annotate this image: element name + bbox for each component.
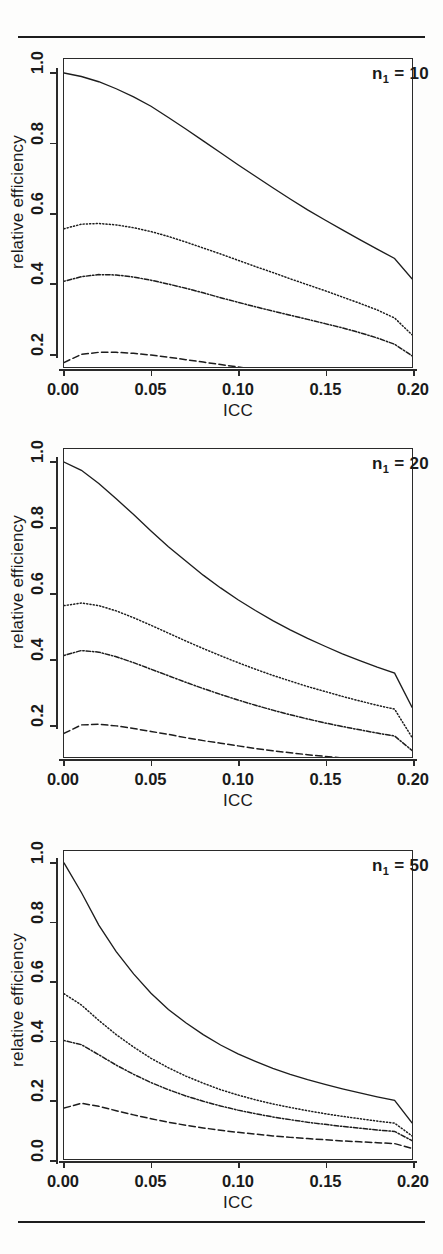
top-horizontal-rule <box>18 36 425 38</box>
y-axis-tick-label: 0.8 <box>28 901 47 924</box>
panel-label: n1 = 10 <box>372 64 429 85</box>
y-axis-tick-label: 0.8 <box>28 122 47 145</box>
y-axis-tick <box>50 213 57 215</box>
x-axis-tick <box>238 759 240 766</box>
y-axis-tick <box>50 1100 57 1102</box>
x-axis-tick-label: 0.10 <box>222 1172 254 1191</box>
curves-layer <box>64 59 412 367</box>
x-axis-tick-label: 0.00 <box>47 770 79 789</box>
curve-series-3 <box>64 1041 412 1141</box>
x-axis-tick <box>63 1161 65 1168</box>
y-axis-tick-label: 0.6 <box>28 960 47 983</box>
curves-layer <box>64 851 412 1159</box>
panel-label-subscript: 1 <box>383 463 389 475</box>
y-axis-tick-label: 0.2 <box>28 704 47 727</box>
x-axis-tick-label: 0.05 <box>134 380 166 399</box>
panel-label-symbol: n <box>372 454 383 473</box>
y-axis-tick-label: 0.2 <box>28 333 47 356</box>
x-axis-tick-label: 0.10 <box>222 770 254 789</box>
y-axis-title: relative efficiency <box>8 515 28 649</box>
y-axis-tick-label: 0.0 <box>28 1139 47 1162</box>
chart-panel-n1-10: n1 = 100.20.40.60.81.0relative efficienc… <box>0 48 443 408</box>
x-axis-tick <box>326 759 328 766</box>
x-axis-tick-label: 0.10 <box>222 380 254 399</box>
panel-label-value: = 10 <box>394 64 429 83</box>
panel-label-symbol: n <box>372 64 383 83</box>
panel-label-symbol: n <box>372 856 383 875</box>
plot-area <box>63 58 413 368</box>
x-axis-tick-label: 0.15 <box>309 770 341 789</box>
x-axis-tick-label: 0.05 <box>134 1172 166 1191</box>
x-axis-tick <box>63 369 65 376</box>
x-axis-tick-label: 0.20 <box>397 380 429 399</box>
curve-series-3 <box>64 275 412 356</box>
x-axis-title: ICC <box>223 401 253 421</box>
y-axis-tick-label: 0.8 <box>28 506 47 529</box>
curve-series-1 <box>64 863 412 1123</box>
y-axis-tick <box>50 283 57 285</box>
x-axis-tick-label: 0.00 <box>47 380 79 399</box>
y-axis-tick-label: 1.0 <box>28 440 47 463</box>
x-axis-tick-label: 0.20 <box>397 1172 429 1191</box>
x-axis-tick <box>326 369 328 376</box>
x-axis-tick <box>413 759 415 766</box>
y-axis-tick-label: 0.4 <box>28 638 47 661</box>
curve-series-1 <box>64 462 412 707</box>
x-axis-tick <box>413 369 415 376</box>
curves-layer <box>64 449 412 757</box>
x-axis-tick-label: 0.05 <box>134 770 166 789</box>
y-axis-tick <box>50 143 57 145</box>
x-axis-tick <box>151 369 153 376</box>
x-axis-tick <box>151 759 153 766</box>
curve-series-2 <box>64 603 412 737</box>
x-axis-tick-label: 0.20 <box>397 770 429 789</box>
x-axis-title: ICC <box>223 791 253 811</box>
y-axis-tick <box>50 1041 57 1043</box>
plot-area <box>63 850 413 1160</box>
y-axis-line <box>56 858 58 1164</box>
y-axis-title: relative efficiency <box>8 933 28 1067</box>
panel-label-value: = 50 <box>394 856 429 875</box>
curve-series-3 <box>64 651 412 751</box>
y-axis-tick <box>50 659 57 661</box>
y-axis-tick <box>50 593 57 595</box>
y-axis-tick <box>50 922 57 924</box>
x-axis-tick-label: 0.00 <box>47 1172 79 1191</box>
panel-label-subscript: 1 <box>383 865 389 877</box>
figure-page: n1 = 100.20.40.60.81.0relative efficienc… <box>0 0 443 1254</box>
y-axis-tick <box>50 72 57 74</box>
y-axis-tick <box>50 1160 57 1162</box>
curve-series-4 <box>64 352 412 367</box>
x-axis-title: ICC <box>223 1193 253 1213</box>
x-axis-tick <box>326 1161 328 1168</box>
plot-area <box>63 448 413 758</box>
y-axis-tick-label: 1.0 <box>28 841 47 864</box>
x-axis-tick <box>238 1161 240 1168</box>
y-axis-tick-label: 0.4 <box>28 262 47 285</box>
chart-panel-n1-50: n1 = 500.00.20.40.60.81.0relative effici… <box>0 840 443 1200</box>
y-axis-tick-label: 0.4 <box>28 1020 47 1043</box>
y-axis-tick <box>50 981 57 983</box>
x-axis-tick <box>63 759 65 766</box>
y-axis-tick-label: 0.2 <box>28 1079 47 1102</box>
y-axis-title: relative efficiency <box>8 135 28 269</box>
panel-label: n1 = 20 <box>372 454 429 475</box>
y-axis-tick <box>50 461 57 463</box>
y-axis-tick-label: 0.6 <box>28 572 47 595</box>
y-axis-tick <box>50 354 57 356</box>
panel-label: n1 = 50 <box>372 856 429 877</box>
panel-label-value: = 20 <box>394 454 429 473</box>
chart-panel-n1-20: n1 = 200.20.40.60.81.0relative efficienc… <box>0 438 443 798</box>
bottom-horizontal-rule <box>18 1221 425 1223</box>
panel-label-subscript: 1 <box>383 73 389 85</box>
x-axis-tick-label: 0.15 <box>309 1172 341 1191</box>
x-axis-tick <box>238 369 240 376</box>
y-axis-tick <box>50 527 57 529</box>
y-axis-tick-label: 1.0 <box>28 51 47 74</box>
x-axis-tick-label: 0.15 <box>309 380 341 399</box>
curve-series-1 <box>64 73 412 279</box>
y-axis-tick <box>50 725 57 727</box>
y-axis-tick-label: 0.6 <box>28 192 47 215</box>
y-axis-tick <box>50 862 57 864</box>
x-axis-tick <box>151 1161 153 1168</box>
